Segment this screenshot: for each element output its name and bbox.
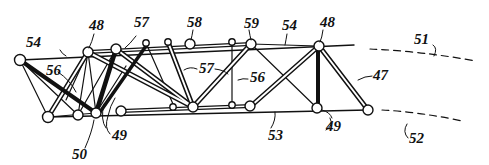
label: 57 bbox=[199, 60, 215, 76]
label: 59 bbox=[244, 15, 260, 31]
label: 58 bbox=[187, 14, 203, 30]
node bbox=[229, 102, 235, 108]
label: 48 bbox=[88, 17, 105, 33]
label: 52 bbox=[409, 130, 425, 146]
label: 53 bbox=[268, 127, 284, 143]
node bbox=[111, 44, 121, 54]
node-48-left bbox=[83, 47, 93, 57]
label: 57 bbox=[134, 14, 150, 30]
label: 56 bbox=[250, 69, 266, 85]
label: 50 bbox=[72, 146, 88, 162]
label: 56 bbox=[46, 62, 62, 78]
truss-diagram: 54 48 57 58 59 54 48 51 56 57 56 47 53 4… bbox=[0, 0, 489, 165]
label: 54 bbox=[282, 17, 298, 33]
node bbox=[43, 112, 54, 123]
node bbox=[116, 106, 126, 116]
node bbox=[188, 102, 198, 112]
reference-labels: 54 48 57 58 59 54 48 51 56 57 56 47 53 4… bbox=[26, 14, 429, 162]
node bbox=[363, 105, 373, 115]
label: 47 bbox=[372, 67, 389, 83]
label: 51 bbox=[414, 31, 429, 47]
label: 54 bbox=[26, 34, 42, 50]
node bbox=[73, 110, 83, 120]
node-50 bbox=[91, 108, 101, 118]
node bbox=[312, 103, 322, 113]
dashed-line-52 bbox=[382, 110, 462, 121]
node-58 bbox=[185, 39, 195, 49]
dashed-line-51 bbox=[370, 49, 476, 61]
label: 49 bbox=[325, 118, 342, 134]
node bbox=[170, 104, 176, 110]
node-48-right bbox=[314, 41, 324, 51]
node bbox=[245, 101, 255, 111]
node bbox=[15, 55, 26, 66]
label: 48 bbox=[319, 14, 336, 30]
node bbox=[229, 39, 235, 45]
node bbox=[143, 40, 149, 46]
label: 49 bbox=[111, 127, 128, 143]
node bbox=[165, 39, 171, 45]
